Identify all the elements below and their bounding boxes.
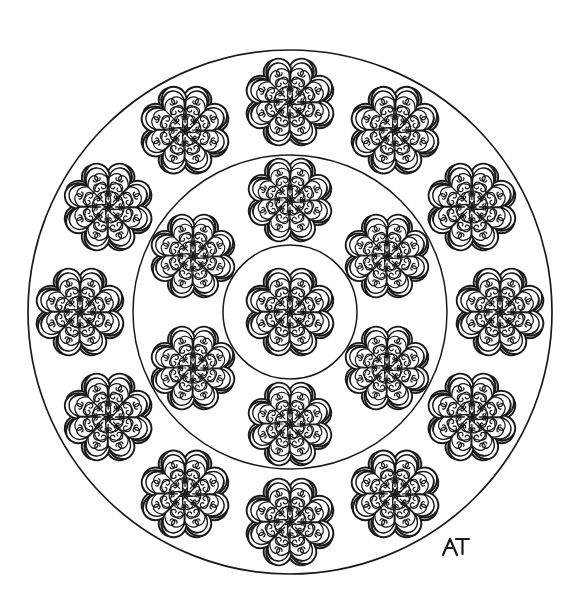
mandala-canvas bbox=[0, 0, 568, 606]
mandala-page: Floral Mandala Coloring Page AT bbox=[0, 0, 568, 606]
